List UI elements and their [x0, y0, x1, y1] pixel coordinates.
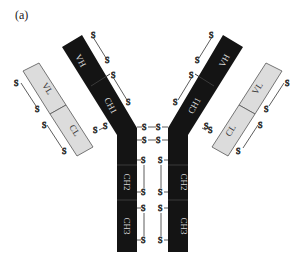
svg-text:S: S: [14, 79, 18, 88]
svg-text:S: S: [285, 79, 289, 88]
svg-text:S: S: [141, 188, 145, 197]
svg-text:S: S: [62, 147, 66, 156]
left-ch2-label: CH2: [122, 173, 132, 190]
svg-text:S: S: [111, 71, 115, 80]
svg-text:S: S: [264, 105, 268, 114]
svg-text:S: S: [158, 188, 162, 197]
svg-text:S: S: [156, 123, 160, 132]
svg-text:S: S: [158, 204, 162, 213]
svg-text:S: S: [105, 56, 109, 65]
svg-text:S: S: [208, 126, 212, 135]
svg-text:S: S: [91, 31, 95, 40]
svg-text:S: S: [103, 122, 107, 131]
svg-text:S: S: [236, 147, 240, 156]
svg-text:S: S: [258, 121, 262, 130]
antibody-diagram: (a) VH CH1 CH2 CH3 VH CH1 CH2 CH3: [0, 0, 305, 268]
left-ch3-label: CH3: [122, 217, 132, 235]
svg-text:S: S: [141, 204, 145, 213]
svg-text:S: S: [158, 236, 162, 245]
right-ch3-label: CH3: [179, 217, 189, 235]
svg-text:S: S: [195, 56, 199, 65]
right-ch2-label: CH2: [179, 173, 189, 190]
panel-label: (a): [15, 8, 28, 23]
svg-text:S: S: [189, 71, 193, 80]
svg-text:S: S: [173, 98, 177, 107]
svg-text:S: S: [35, 105, 39, 114]
svg-text:S: S: [142, 136, 146, 145]
disulfide-bonds: SS SS SS SS SS SS SS SS SS SS: [14, 31, 289, 245]
svg-text:S: S: [141, 156, 145, 165]
svg-text:S: S: [93, 126, 97, 135]
svg-text:S: S: [126, 98, 130, 107]
svg-text:S: S: [141, 236, 145, 245]
svg-text:S: S: [142, 123, 146, 132]
svg-text:S: S: [156, 136, 160, 145]
svg-text:S: S: [209, 31, 213, 40]
svg-text:S: S: [42, 121, 46, 130]
svg-text:S: S: [158, 156, 162, 165]
